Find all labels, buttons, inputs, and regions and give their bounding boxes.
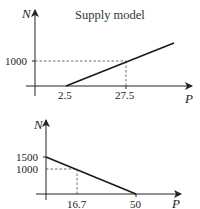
demand-chart: N P 1500 1000 16.7 50 [16,117,181,209]
bottom-xtick-label-50: 50 [130,198,142,209]
top-xtick-label-2-5: 2.5 [58,89,72,101]
top-x-axis-label: P [184,91,193,106]
supply-demand-figure: N P Supply model 1000 2.5 27.5 N P 1500 … [0,0,200,209]
bottom-x-axis-label: P [171,196,180,209]
demand-line [46,157,136,194]
bottom-ytick-label-1000: 1000 [16,163,39,175]
bottom-y-axis-label: N [33,117,44,132]
supply-chart: N P Supply model 1000 2.5 27.5 [5,6,193,106]
top-xtick-label-27-5: 27.5 [115,89,135,101]
supply-line [66,43,174,86]
top-ytick-label-1000: 1000 [5,55,28,67]
chart-title: Supply model [75,8,145,22]
top-y-axis-label: N [21,6,32,21]
bottom-xtick-label-16-7: 16.7 [67,198,87,209]
bottom-ytick-label-1500: 1500 [16,151,39,163]
